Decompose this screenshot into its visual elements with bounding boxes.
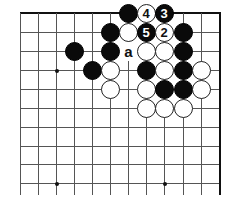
star-point <box>55 182 59 186</box>
white-stone <box>137 80 156 99</box>
black-stone <box>137 61 156 80</box>
white-stone <box>192 80 211 99</box>
black-stone <box>155 80 174 99</box>
black-stone <box>119 4 138 23</box>
white-stone <box>155 61 174 80</box>
black-stone <box>174 61 193 80</box>
white-stone-move-2: 2 <box>155 23 174 42</box>
grid-line-vertical <box>92 13 93 195</box>
white-stone <box>137 42 156 61</box>
point-marker-a: a <box>119 42 138 61</box>
white-stone <box>155 42 174 61</box>
grid-line-horizontal <box>20 164 220 165</box>
grid-line-horizontal <box>20 146 220 147</box>
go-board-diagram: a4352 <box>0 0 226 204</box>
white-stone <box>119 23 138 42</box>
white-stone-move-4: 4 <box>137 4 156 23</box>
black-stone <box>101 23 120 42</box>
star-point <box>55 69 59 73</box>
white-stone <box>101 80 120 99</box>
black-stone <box>174 42 193 61</box>
white-stone <box>174 99 193 118</box>
grid-line-vertical <box>56 13 57 195</box>
grid-line-vertical <box>38 13 39 195</box>
black-stone <box>174 23 193 42</box>
black-stone-move-3: 3 <box>155 4 174 23</box>
black-stone <box>65 42 84 61</box>
grid-line-vertical <box>201 13 202 195</box>
black-stone <box>174 80 193 99</box>
white-stone <box>137 99 156 118</box>
grid-line-horizontal <box>20 127 220 128</box>
star-point <box>163 182 167 186</box>
black-stone <box>83 61 102 80</box>
board-right-edge <box>219 13 221 195</box>
white-stone <box>192 61 211 80</box>
black-stone <box>101 42 120 61</box>
grid-line-vertical <box>20 13 21 195</box>
white-stone <box>155 99 174 118</box>
grid-line-horizontal <box>20 183 220 184</box>
black-stone-move-5: 5 <box>137 23 156 42</box>
white-stone <box>101 61 120 80</box>
grid-line-vertical <box>74 13 75 195</box>
